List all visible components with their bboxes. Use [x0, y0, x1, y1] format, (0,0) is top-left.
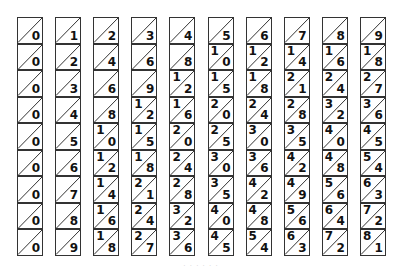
tens-digit: 2 [211, 98, 219, 111]
units-digit: 0 [184, 136, 192, 149]
units-digit: 3 [70, 83, 78, 96]
rod-cell: 49 [284, 176, 310, 203]
rod-cell: 5 [208, 17, 234, 44]
units-digit: 5 [222, 242, 230, 255]
units-digit: 3 [375, 189, 383, 202]
tens-digit: 3 [211, 151, 219, 164]
units-digit: 6 [70, 162, 78, 175]
rod-cell: 6 [131, 44, 157, 71]
tens-digit: 1 [287, 45, 295, 58]
tens-digit: 5 [363, 151, 371, 164]
rod-cell: 8 [169, 44, 195, 71]
tens-digit: 2 [287, 98, 295, 111]
rod-cell: 42 [284, 150, 310, 177]
rod-cell: 56 [322, 176, 348, 203]
units-digit: 8 [146, 162, 154, 175]
tens-digit: 2 [249, 98, 257, 111]
rod-cell: 28 [169, 176, 195, 203]
rod-cell: 24 [322, 70, 348, 97]
units-digit: 6 [108, 83, 116, 96]
rod-cell: 54 [360, 150, 386, 177]
rod-cell: 15 [208, 70, 234, 97]
units-digit: 0 [32, 242, 40, 255]
rod-cell: 0 [17, 97, 43, 124]
rod-cell: 18 [93, 229, 119, 256]
units-digit: 6 [260, 162, 268, 175]
rod-cell: 36 [246, 150, 272, 177]
rod-cell: 9 [360, 17, 386, 44]
units-digit: 0 [32, 215, 40, 228]
units-digit: 0 [32, 189, 40, 202]
rod-cell: 7 [284, 17, 310, 44]
rod-cell: 15 [131, 123, 157, 150]
rod-cell: 16 [93, 203, 119, 230]
units-digit: 5 [298, 136, 306, 149]
units-digit: 0 [222, 215, 230, 228]
units-digit: 5 [222, 189, 230, 202]
units-digit: 0 [336, 136, 344, 149]
units-digit: 9 [375, 30, 383, 43]
units-digit: 8 [336, 162, 344, 175]
tens-digit: 4 [249, 177, 257, 190]
rod-cell: 20 [169, 123, 195, 150]
tens-digit: 1 [96, 151, 104, 164]
tens-digit: 7 [325, 230, 333, 243]
rod-cell: 5 [55, 123, 81, 150]
rod-cell: 35 [208, 176, 234, 203]
units-digit: 8 [260, 83, 268, 96]
rod-cell: 0 [17, 17, 43, 44]
tens-digit: 4 [287, 151, 295, 164]
units-digit: 6 [336, 56, 344, 69]
units-digit: 8 [108, 109, 116, 122]
rod-cell: 42 [246, 176, 272, 203]
tens-digit: 7 [363, 204, 371, 217]
units-digit: 4 [108, 56, 116, 69]
tens-digit: 5 [249, 230, 257, 243]
units-digit: 5 [70, 136, 78, 149]
units-digit: 4 [108, 189, 116, 202]
rod-cell: 24 [246, 97, 272, 124]
rod-cell: 21 [284, 70, 310, 97]
rod-cell: 9 [55, 229, 81, 256]
units-digit: 0 [32, 56, 40, 69]
units-digit: 2 [336, 242, 344, 255]
tens-digit: 1 [134, 151, 142, 164]
units-digit: 1 [375, 242, 383, 255]
units-digit: 8 [298, 109, 306, 122]
units-digit: 9 [298, 189, 306, 202]
tens-digit: 6 [325, 204, 333, 217]
rod-cell: 7 [55, 176, 81, 203]
tens-digit: 1 [211, 71, 219, 84]
tens-digit: 1 [249, 71, 257, 84]
rod-cell: 10 [93, 123, 119, 150]
units-digit: 2 [184, 215, 192, 228]
rod-cell: 32 [169, 203, 195, 230]
units-digit: 2 [260, 189, 268, 202]
units-digit: 0 [222, 56, 230, 69]
units-digit: 5 [146, 136, 154, 149]
units-digit: 5 [375, 136, 383, 149]
rod-cell: 27 [360, 70, 386, 97]
units-digit: 1 [146, 189, 154, 202]
tens-digit: 1 [96, 230, 104, 243]
units-digit: 8 [184, 189, 192, 202]
tens-digit: 1 [363, 45, 371, 58]
units-digit: 8 [70, 215, 78, 228]
tens-digit: 2 [325, 71, 333, 84]
tens-digit: 2 [172, 151, 180, 164]
tens-digit: 5 [287, 204, 295, 217]
tens-digit: 2 [172, 124, 180, 137]
rod-cell: 8 [93, 97, 119, 124]
units-digit: 0 [32, 136, 40, 149]
rod-cell: 40 [208, 203, 234, 230]
rod-cell: 36 [360, 97, 386, 124]
rod-cell: 63 [284, 229, 310, 256]
tens-digit: 1 [134, 124, 142, 137]
tens-digit: 4 [325, 124, 333, 137]
units-digit: 2 [70, 56, 78, 69]
rod-cell: 56 [284, 203, 310, 230]
tens-digit: 2 [172, 177, 180, 190]
tens-digit: 1 [211, 45, 219, 58]
tens-digit: 3 [325, 98, 333, 111]
rod-cell: 2 [93, 17, 119, 44]
